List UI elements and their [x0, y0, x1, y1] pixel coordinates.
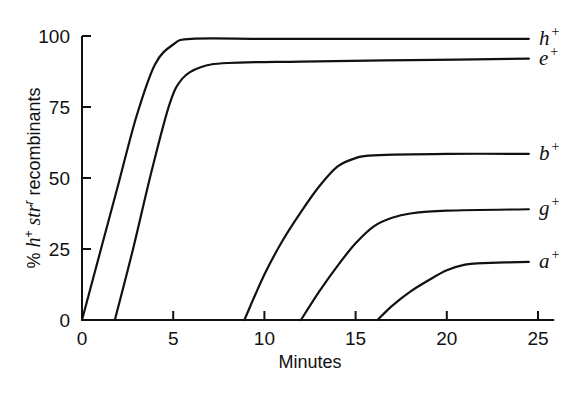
y-axis-title-text: % h+ strr recombinants	[22, 87, 44, 268]
x-tick-label: 5	[168, 328, 179, 349]
series-label-b-plus: b+	[539, 139, 560, 165]
curves	[82, 38, 529, 320]
y-tick-label: 50	[49, 168, 70, 189]
y-tick-label: 75	[49, 97, 70, 118]
series-labels: h+e+b+g+a+	[539, 24, 560, 273]
y-axis-title: % h+ strr recombinants	[22, 87, 44, 268]
x-axis: 0510152025	[77, 311, 555, 349]
series-label-a-plus: a+	[539, 247, 560, 273]
x-tick-label: 0	[77, 328, 88, 349]
curve-g-plus	[301, 209, 529, 320]
y-tick-label: 25	[49, 239, 70, 260]
x-axis-title: Minutes	[278, 352, 341, 372]
curve-a-plus	[377, 262, 528, 320]
curve-e-plus	[115, 59, 529, 320]
x-tick-label: 20	[436, 328, 457, 349]
series-label-g-plus: g+	[539, 194, 560, 220]
x-tick-label: 25	[527, 328, 548, 349]
recombinant-kinetics-chart: % h+ strr recombinants 0255075100 051015…	[0, 0, 580, 398]
curve-b-plus	[244, 154, 529, 320]
y-tick-label: 0	[59, 310, 70, 331]
x-tick-label: 15	[345, 328, 366, 349]
y-tick-label: 100	[38, 26, 70, 47]
x-tick-label: 10	[254, 328, 275, 349]
y-axis: 0255075100	[38, 26, 91, 331]
